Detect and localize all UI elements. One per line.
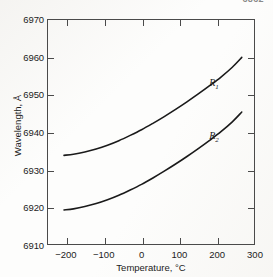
x-axis-tick-label: 300 (247, 249, 263, 260)
x-axis-tick-label: −200 (55, 249, 76, 260)
series-label-R1: R1 (209, 77, 219, 91)
figure-container: 6862 6910692069306940695069606970 −200−1… (0, 0, 273, 277)
y-axis-tick-label: 6920 (23, 202, 44, 213)
series-label-subscript: 2 (215, 136, 219, 144)
y-axis-tick-label: 6950 (23, 89, 44, 100)
x-axis-tick-label: 0 (139, 249, 144, 260)
x-axis-tick-label: −100 (93, 249, 114, 260)
series-label-R2: R2 (209, 130, 219, 144)
x-axis-title: Temperature, °C (47, 262, 255, 273)
y-axis-tick-label: 6940 (23, 127, 44, 138)
page-header-fragment: 6862 (242, 0, 264, 2)
y-axis-tick-label: 6960 (23, 51, 44, 62)
data-curves (47, 19, 255, 245)
curve-R2 (64, 112, 242, 210)
y-axis-title: Wavelength, Å (12, 66, 23, 186)
x-axis-tick-labels: −200−1000100200300 (47, 249, 255, 263)
x-axis-tick-label: 100 (171, 249, 187, 260)
y-axis-tick-label: 6930 (23, 164, 44, 175)
y-axis-tick-label: 6910 (23, 240, 44, 251)
y-axis-tick-label: 6970 (23, 14, 44, 25)
x-axis-tick-label: 200 (209, 249, 225, 260)
series-label-subscript: 1 (215, 83, 219, 91)
